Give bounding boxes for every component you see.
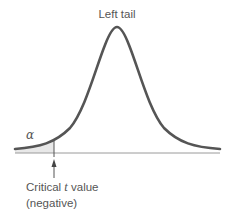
critical-label-prefix: Critical [26, 181, 64, 193]
critical-value-note: (negative) [26, 196, 77, 210]
critical-label-suffix: value [68, 181, 99, 193]
t-distribution-curve [15, 27, 220, 149]
critical-value-label: Critical t value [26, 180, 99, 194]
alpha-label: α [26, 128, 34, 142]
arrow-up-icon [52, 159, 57, 167]
diagram-title: Left tail [0, 7, 232, 21]
